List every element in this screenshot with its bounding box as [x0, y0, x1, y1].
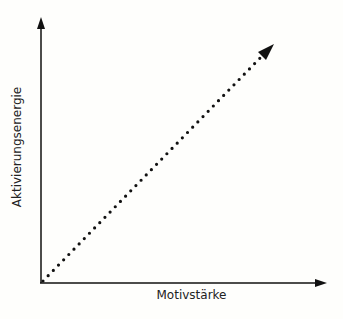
y-axis-arrow-icon [37, 17, 45, 29]
diagram-canvas [0, 0, 343, 319]
x-axis-label: Motivstärke [0, 288, 343, 302]
x-axis-arrow-icon [315, 279, 327, 287]
dotted-trend-line [43, 56, 262, 281]
y-axis-label: Aktivierungsenergie [10, 72, 24, 222]
